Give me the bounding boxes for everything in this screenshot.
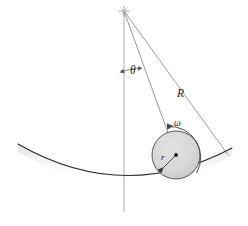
physics-diagram-figure: θ R ω r	[0, 0, 248, 226]
angular-velocity-omega-label: ω	[174, 118, 181, 128]
diagram-canvas: θ R ω r	[0, 0, 248, 226]
radius-r-label: r	[161, 152, 165, 162]
angle-theta-label: θ	[130, 64, 136, 76]
radius-R-label: R	[176, 87, 184, 99]
pivot-marker	[119, 6, 130, 17]
